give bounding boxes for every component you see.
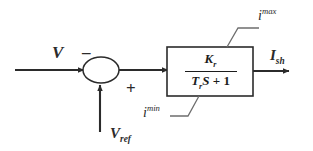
label-limit-min-sup: min — [147, 103, 160, 113]
label-output-ish-sub: sh — [276, 56, 285, 66]
label-input-vref: Vref — [110, 126, 131, 144]
label-input-v: V — [52, 44, 63, 61]
numerator-gain-sub: r — [213, 60, 216, 69]
leader-line-imin — [170, 96, 199, 116]
transfer-function-denominator: TrS + 1 — [191, 72, 230, 91]
block-diagram: V – + Vref imax imin Ish Kr TrS + 1 — [0, 0, 313, 151]
label-limit-min: imin — [143, 104, 160, 120]
transfer-function-numerator: Kr — [205, 52, 217, 70]
denominator-time-constant: T — [191, 73, 199, 88]
leader-line-imax — [227, 28, 259, 47]
sign-negative: – — [82, 44, 91, 61]
label-output-ish: Ish — [270, 48, 285, 66]
sign-positive: + — [126, 80, 136, 97]
label-input-vref-sub: ref — [120, 134, 131, 144]
denominator-constant: 1 — [223, 73, 230, 88]
label-limit-max: imax — [258, 7, 276, 23]
denominator-operator: + — [213, 73, 220, 88]
label-limit-max-sup: max — [262, 6, 276, 16]
label-input-v-text: V — [52, 43, 63, 62]
numerator-gain: K — [205, 51, 214, 66]
label-input-vref-base: V — [110, 125, 120, 141]
transfer-function-expression: Kr TrS + 1 — [167, 47, 254, 96]
